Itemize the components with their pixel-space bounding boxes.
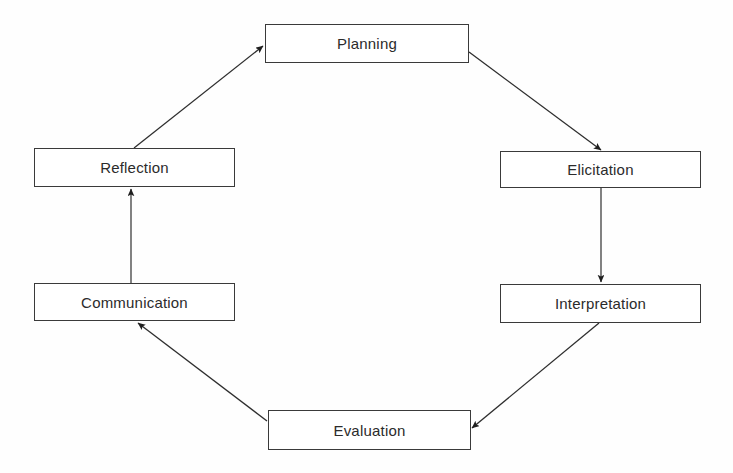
arrow-layer (0, 0, 733, 473)
node-interpretation-label: Interpretation (555, 296, 646, 311)
node-communication[interactable]: Communication (34, 283, 235, 321)
edge-evaluation-to-communication (138, 323, 267, 421)
node-planning-label: Planning (337, 36, 397, 51)
node-reflection[interactable]: Reflection (34, 148, 235, 187)
node-evaluation[interactable]: Evaluation (268, 410, 471, 450)
node-interpretation[interactable]: Interpretation (500, 284, 701, 323)
edge-group (131, 46, 601, 428)
node-reflection-label: Reflection (100, 160, 169, 175)
node-elicitation-label: Elicitation (567, 162, 633, 177)
node-planning[interactable]: Planning (265, 24, 469, 63)
node-elicitation[interactable]: Elicitation (500, 151, 701, 188)
diagram-canvas: Planning Elicitation Interpretation Eval… (0, 0, 733, 473)
edge-interpretation-to-evaluation (472, 323, 599, 428)
edge-planning-to-elicitation (469, 52, 601, 150)
edge-reflection-to-planning (134, 46, 263, 148)
node-communication-label: Communication (81, 295, 188, 310)
node-evaluation-label: Evaluation (333, 423, 405, 438)
